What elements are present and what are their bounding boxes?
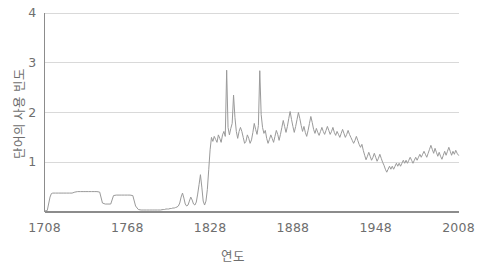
data-series bbox=[45, 70, 459, 211]
x-tick-label-1828: 1828 bbox=[180, 220, 240, 235]
x-tick-label-1708: 1708 bbox=[15, 220, 75, 235]
series-line-0 bbox=[45, 70, 459, 211]
x-tick-label-1948: 1948 bbox=[346, 220, 406, 235]
y-axis-title: 단어의 사용 빈도 bbox=[9, 54, 28, 174]
y-tick-label-4: 4 bbox=[17, 5, 37, 20]
x-tick-label-1888: 1888 bbox=[263, 220, 323, 235]
x-axis-title: 연도 bbox=[0, 246, 466, 265]
x-tick-label-1768: 1768 bbox=[97, 220, 157, 235]
x-tick-label-2008: 2008 bbox=[429, 220, 479, 235]
